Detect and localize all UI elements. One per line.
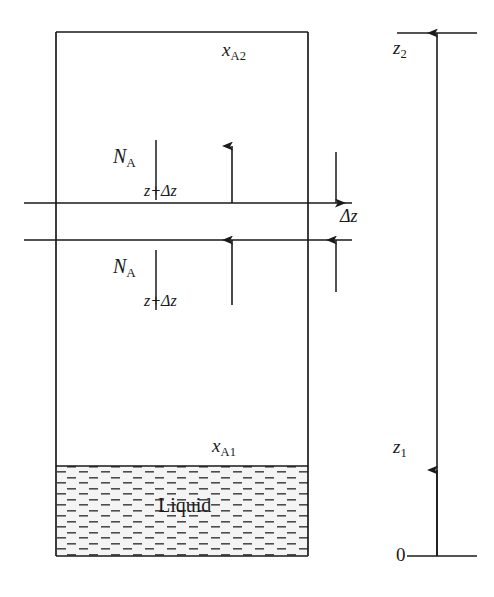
label-flux-upper-evaluated-at: z+Δz: [144, 183, 177, 199]
label-flux-upper-subscript: A: [126, 155, 136, 170]
diagram-canvas: [0, 0, 494, 597]
label-mole-fraction-interface: xA1: [212, 436, 236, 459]
control-volume-boundaries: [24, 203, 352, 240]
label-flux-lower-subscript: A: [126, 265, 136, 280]
label-mole-fraction-top: xA2: [222, 40, 246, 63]
label-delta-z: Δz: [340, 207, 358, 225]
label-z2-subscript: 2: [400, 47, 407, 61]
label-z1-subscript: 1: [400, 446, 407, 460]
diffusion-column-diagram: xA2 xA1 NA z+Δz NA z+Δz Δz z2 z1 0 Liqui…: [0, 0, 494, 597]
label-xa2-subscript: A2: [230, 49, 246, 63]
label-xa1-subscript: A1: [220, 445, 236, 459]
label-flux-upper: NA: [113, 146, 136, 169]
label-liquid: Liquid: [158, 495, 211, 515]
z-axis: [397, 33, 477, 556]
label-z-bottom: z1: [393, 437, 407, 460]
label-flux-lower-symbol: N: [113, 255, 126, 277]
label-origin: 0: [396, 545, 406, 564]
label-flux-lower: NA: [113, 256, 136, 279]
label-z-top: z2: [393, 38, 407, 61]
label-flux-lower-evaluated-at: z+Δz: [144, 293, 177, 309]
label-flux-upper-symbol: N: [113, 145, 126, 167]
